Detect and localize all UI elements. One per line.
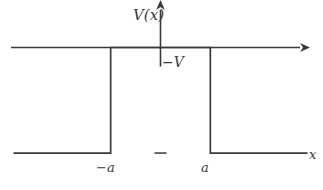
xtick-label-a: a — [201, 161, 209, 174]
y-axis-label: V(x) — [133, 8, 164, 23]
xtick-neg-a-text: −a — [96, 160, 115, 175]
x-axis-arrowhead — [300, 43, 310, 52]
xtick-a-text: a — [201, 160, 209, 175]
x-axis-label-text: x — [309, 147, 316, 162]
level-neg-v-text: −V — [162, 54, 184, 70]
level-neg-v-label: −V — [162, 55, 184, 69]
x-axis-label: x — [309, 148, 316, 161]
xtick-label-neg-a: −a — [96, 161, 115, 174]
potential-plot-svg — [0, 0, 323, 190]
potential-well-figure: V(x) −V −a a x — [0, 0, 323, 190]
y-axis-label-text: V(x) — [133, 6, 164, 24]
